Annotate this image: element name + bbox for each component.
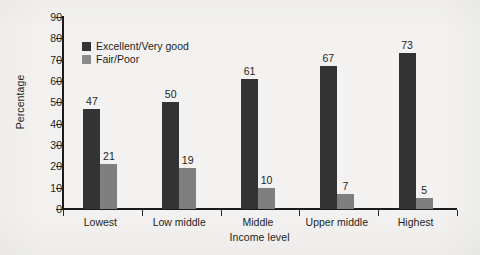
y-tick-label-wrap: 90 bbox=[0, 12, 62, 22]
legend-item-fair-poor[interactable]: Fair/Poor bbox=[82, 54, 189, 65]
y-tick-label-wrap: 50 bbox=[0, 97, 62, 107]
bar-upper-middle-series-1 bbox=[337, 194, 354, 209]
bar-value-label: 47 bbox=[80, 95, 104, 107]
y-tick-label-wrap: 40 bbox=[0, 119, 62, 129]
y-tick-label: 10 bbox=[36, 183, 62, 193]
y-tick-label-wrap: 10 bbox=[0, 183, 62, 193]
y-tick-label: 20 bbox=[36, 161, 62, 171]
legend-label-fair-poor: Fair/Poor bbox=[96, 54, 139, 65]
y-tick-label: 40 bbox=[36, 119, 62, 129]
x-category-label: Upper middle bbox=[292, 216, 382, 228]
legend-swatch-icon-excellent-very-good bbox=[82, 42, 91, 51]
bar-value-label: 10 bbox=[255, 174, 279, 186]
bar-middle-series-1 bbox=[258, 188, 275, 209]
y-axis-line bbox=[62, 16, 64, 210]
y-tick-label-wrap: 70 bbox=[0, 55, 62, 65]
y-tick-label: 80 bbox=[36, 33, 62, 43]
y-tick-label: 70 bbox=[36, 55, 62, 65]
bar-middle-series-0 bbox=[241, 79, 258, 209]
y-tick-label: 0 bbox=[36, 204, 62, 214]
y-tick-label: 50 bbox=[36, 97, 62, 107]
bar-value-label: 7 bbox=[333, 180, 357, 192]
bar-value-label: 21 bbox=[97, 150, 121, 162]
x-axis-title: Income level bbox=[62, 231, 457, 243]
bar-value-label: 67 bbox=[316, 52, 340, 64]
bar-value-label: 73 bbox=[395, 39, 419, 51]
legend-item-excellent-very-good[interactable]: Excellent/Very good bbox=[82, 41, 189, 52]
chart-legend: Excellent/Very good Fair/Poor bbox=[82, 41, 189, 67]
y-tick-label: 30 bbox=[36, 140, 62, 150]
legend-label-excellent-very-good: Excellent/Very good bbox=[96, 41, 189, 52]
bar-lowest-series-1 bbox=[100, 164, 117, 209]
x-category-label: Highest bbox=[371, 216, 461, 228]
bar-value-label: 5 bbox=[412, 184, 436, 196]
legend-swatch-icon-fair-poor bbox=[82, 55, 91, 64]
bar-value-label: 19 bbox=[176, 154, 200, 166]
chart-figure: Percentage 0102030405060708090 472150196… bbox=[0, 0, 480, 255]
y-tick-label-wrap: 80 bbox=[0, 33, 62, 43]
bar-low-middle-series-1 bbox=[179, 168, 196, 209]
y-tick-label-wrap: 30 bbox=[0, 140, 62, 150]
y-tick-label: 90 bbox=[36, 12, 62, 22]
bar-value-label: 61 bbox=[238, 65, 262, 77]
x-category-label: Lowest bbox=[55, 216, 145, 228]
bar-value-label: 50 bbox=[159, 88, 183, 100]
y-tick-label-wrap: 0 bbox=[0, 204, 62, 214]
x-category-label: Middle bbox=[213, 216, 303, 228]
x-category-label: Low middle bbox=[134, 216, 224, 228]
y-tick-label-wrap: 60 bbox=[0, 76, 62, 86]
y-tick-label: 60 bbox=[36, 76, 62, 86]
y-tick-label-wrap: 20 bbox=[0, 161, 62, 171]
bar-highest-series-1 bbox=[416, 198, 433, 209]
